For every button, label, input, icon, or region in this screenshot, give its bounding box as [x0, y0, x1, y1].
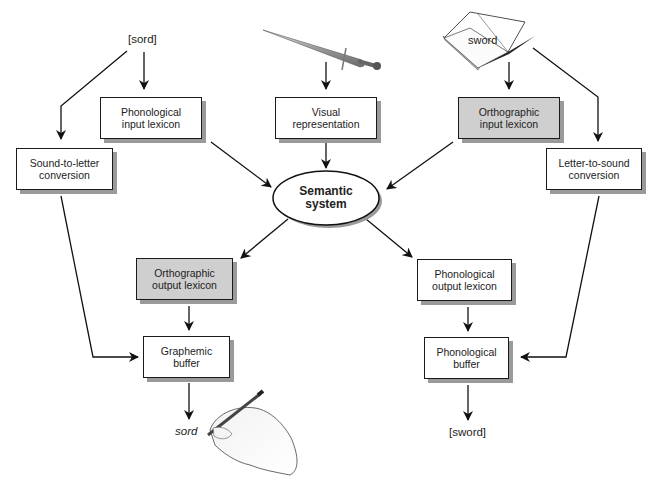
- writing-hand-icon: [208, 391, 297, 475]
- phonological-buffer-box: Phonologicalbuffer: [424, 337, 509, 379]
- box-line: Sound-to-letter: [30, 157, 99, 169]
- written-output-label: sord: [175, 425, 197, 437]
- semantic-line: Semantic: [299, 184, 352, 198]
- box-line: Graphemic: [161, 345, 212, 357]
- sword-icon: [263, 30, 381, 70]
- semantic-system-label: Semanticsystem: [276, 185, 376, 211]
- letter-to-sound-box: Letter-to-soundconversion: [546, 148, 642, 190]
- box-line: buffer: [453, 358, 480, 370]
- spoken-output-label: [sword]: [449, 426, 486, 438]
- box-line: Phonological: [434, 268, 494, 280]
- box-line: Letter-to-sound: [558, 157, 629, 169]
- box-line: buffer: [173, 357, 200, 369]
- diagram-canvas: [0, 0, 657, 478]
- phonological-input-lexicon-box: Phonologicalinput lexicon: [100, 97, 202, 139]
- visual-representation-box: Visualrepresentation: [275, 97, 377, 139]
- box-line: Orthographic: [479, 106, 540, 118]
- written-input-label: sword: [468, 34, 497, 46]
- box-line: conversion: [569, 169, 620, 181]
- box-line: input lexicon: [122, 118, 180, 130]
- box-line: Orthographic: [154, 267, 215, 279]
- box-line: output lexicon: [152, 279, 217, 291]
- box-line: conversion: [39, 169, 90, 181]
- arrow-phon-input-to-semantic: [211, 142, 271, 187]
- arrow-semantic-to-phon-output: [366, 219, 412, 257]
- box-line: Phonological: [121, 106, 181, 118]
- spoken-input-label: [sord]: [128, 33, 157, 45]
- arrow-letter-to-sound-to-phon-buffer: [521, 196, 599, 357]
- box-line: output lexicon: [432, 280, 497, 292]
- orthographic-input-lexicon-box: Orthographicinput lexicon: [458, 97, 560, 139]
- phonological-output-lexicon-box: Phonologicaloutput lexicon: [417, 259, 512, 301]
- arrow-semantic-to-orth-output: [241, 219, 288, 258]
- semantic-line: system: [305, 197, 346, 211]
- graphemic-buffer-box: Graphemicbuffer: [143, 336, 230, 378]
- box-line: Visual: [312, 106, 340, 118]
- box-line: Phonological: [436, 346, 496, 358]
- box-line: input lexicon: [480, 118, 538, 130]
- orthographic-output-lexicon-box: Orthographicoutput lexicon: [136, 258, 233, 300]
- sound-to-letter-box: Sound-to-letterconversion: [16, 148, 113, 190]
- box-line: representation: [292, 118, 359, 130]
- arrow-sound-to-letter-to-graphemic: [61, 196, 138, 357]
- arrow-orth-input-to-semantic: [387, 142, 453, 189]
